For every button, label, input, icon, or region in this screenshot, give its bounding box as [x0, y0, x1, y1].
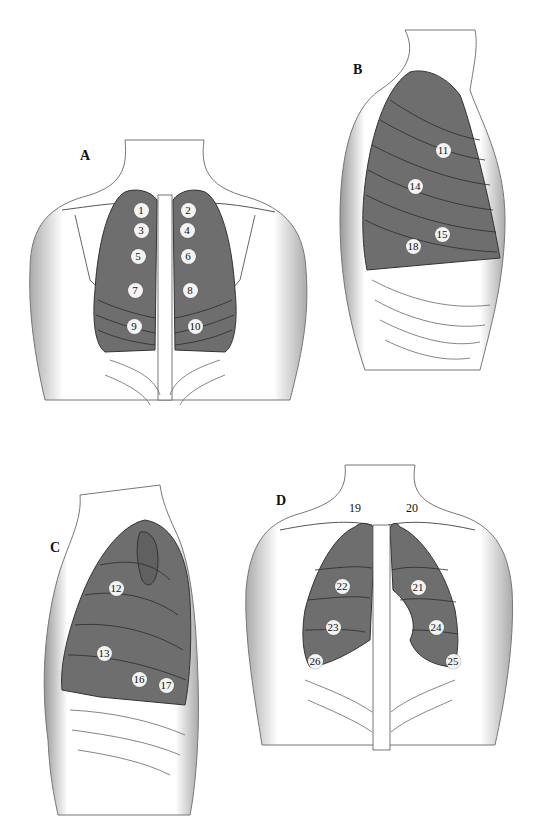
auscultation-point-marker: 10 — [188, 319, 203, 334]
auscultation-point-marker: 21 — [411, 580, 426, 595]
auscultation-point-marker: 14 — [408, 179, 423, 194]
auscultation-point-marker: 5 — [131, 249, 146, 264]
auscultation-point-marker: 13 — [97, 646, 112, 661]
auscultation-point-marker: 1 — [134, 203, 149, 218]
auscultation-point-marker: 23 — [326, 620, 341, 635]
auscultation-point-marker: 19 — [348, 501, 363, 516]
panel-label: D — [276, 493, 286, 509]
auscultation-point-marker: 7 — [128, 283, 143, 298]
auscultation-point-marker: 4 — [180, 223, 195, 238]
auscultation-point-marker: 24 — [429, 620, 444, 635]
auscultation-point-marker: 6 — [181, 249, 196, 264]
auscultation-point-marker: 20 — [405, 501, 420, 516]
auscultation-point-marker: 16 — [132, 672, 147, 687]
auscultation-point-marker: 3 — [134, 223, 149, 238]
auscultation-point-marker: 15 — [435, 227, 450, 242]
auscultation-point-marker: 11 — [436, 143, 451, 158]
auscultation-point-marker: 18 — [406, 239, 421, 254]
auscultation-point-marker: 9 — [127, 319, 142, 334]
panel-d-anterior: D — [0, 0, 545, 830]
auscultation-point-marker: 12 — [109, 581, 124, 596]
anterior-torso-illustration — [0, 0, 545, 830]
auscultation-point-marker: 26 — [308, 654, 323, 669]
auscultation-point-marker: 2 — [181, 203, 196, 218]
auscultation-point-marker: 22 — [335, 579, 350, 594]
auscultation-point-marker: 17 — [159, 678, 174, 693]
auscultation-point-marker: 8 — [183, 283, 198, 298]
auscultation-point-marker: 25 — [446, 654, 461, 669]
